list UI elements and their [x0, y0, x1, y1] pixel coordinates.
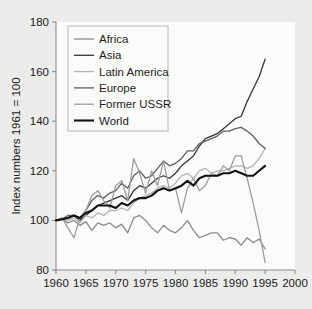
legend-label-former-ussr: Former USSR [99, 98, 171, 110]
x-tick-label: 1990 [222, 277, 248, 289]
line-chart: 8010012014016018019601965197019751980198… [0, 0, 312, 309]
x-tick-label: 1960 [43, 277, 69, 289]
x-tick-label: 1995 [252, 277, 278, 289]
y-tick-label: 120 [30, 165, 49, 177]
x-tick-label: 1980 [163, 277, 189, 289]
y-tick-label: 100 [30, 214, 49, 226]
x-tick-label: 1985 [193, 277, 219, 289]
y-axis-title: Index numbers 1961 = 100 [10, 77, 22, 214]
legend-label-world: World [99, 115, 129, 127]
legend-label-asia: Asia [99, 49, 122, 61]
chart-figure: 8010012014016018019601965197019751980198… [0, 0, 312, 309]
y-tick-label: 180 [30, 16, 49, 28]
x-tick-label: 1970 [103, 277, 129, 289]
x-tick-label: 1975 [133, 277, 159, 289]
y-tick-label: 80 [36, 264, 49, 276]
x-tick-label: 2000 [282, 277, 308, 289]
y-tick-label: 160 [30, 66, 49, 78]
legend-label-europe: Europe [99, 82, 136, 94]
x-tick-label: 1965 [73, 277, 99, 289]
legend-label-latin-america: Latin America [99, 66, 169, 78]
y-tick-label: 140 [30, 115, 49, 127]
legend-label-africa: Africa [99, 33, 129, 45]
